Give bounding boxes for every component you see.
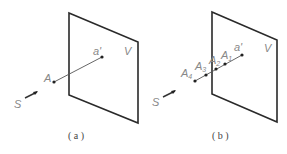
projection-ray (54, 57, 102, 82)
point-a1 (223, 62, 226, 65)
projection-plane-v (212, 12, 277, 122)
label-a1: A1 (220, 49, 232, 62)
plane-label-v: V (124, 45, 133, 57)
point-a-prime (240, 53, 243, 56)
panel-b: V A4 A3 A2 A1 a' S ( b ) (152, 12, 277, 142)
point-a3 (204, 73, 207, 76)
caption-a: ( a ) (68, 130, 84, 142)
caption-b: ( b ) (212, 130, 229, 142)
label-s: S (152, 96, 160, 108)
point-a2 (214, 67, 217, 70)
label-a3: A3 (194, 60, 206, 73)
projection-diagram: V A a' S ( a ) V A4 A3 A2 A1 a' S ( b ) (0, 0, 287, 154)
label-a-prime: a' (234, 41, 243, 53)
label-a: A (43, 72, 51, 84)
point-a (52, 80, 55, 83)
label-a2: A2 (208, 54, 220, 67)
label-a4: A4 (180, 67, 192, 80)
plane-label-v: V (264, 42, 273, 54)
projection-plane-v (69, 13, 138, 123)
label-a-prime: a' (93, 45, 102, 57)
label-s: S (14, 98, 22, 110)
point-a4 (193, 79, 196, 82)
panel-a: V A a' S ( a ) (14, 13, 138, 142)
